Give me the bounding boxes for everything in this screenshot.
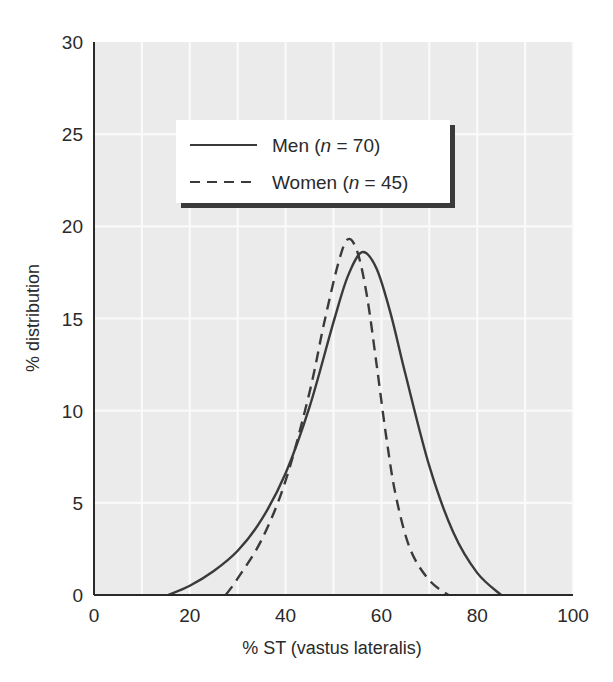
y-axis-title: % distribution (23, 264, 43, 372)
x-tick-label: 60 (371, 605, 392, 626)
y-tick-label: 15 (62, 309, 83, 330)
y-tick-label: 0 (72, 585, 83, 606)
x-tick-label: 80 (467, 605, 488, 626)
x-tick-label: 100 (557, 605, 589, 626)
x-tick-label: 40 (275, 605, 296, 626)
x-tick-label: 0 (89, 605, 100, 626)
y-tick-label: 5 (72, 493, 83, 514)
legend-label-women: Women (n = 45) (272, 172, 408, 193)
legend: Men (n = 70) Women (n = 45) (176, 120, 455, 208)
x-axis-tick-labels: 020406080100 (89, 605, 589, 626)
distribution-chart: 020406080100 051015202530 % ST (vastus l… (0, 0, 613, 682)
legend-label-men: Men (n = 70) (272, 135, 380, 156)
x-tick-label: 20 (179, 605, 200, 626)
y-axis-tick-labels: 051015202530 (62, 32, 83, 606)
y-tick-label: 25 (62, 124, 83, 145)
y-tick-label: 20 (62, 216, 83, 237)
y-tick-label: 30 (62, 32, 83, 53)
x-axis-title: % ST (vastus lateralis) (242, 638, 422, 658)
y-tick-label: 10 (62, 401, 83, 422)
